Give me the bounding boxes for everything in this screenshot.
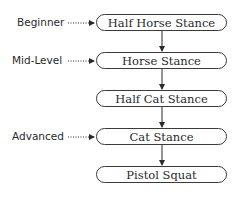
step-cat-stance: Cat Stance [96, 128, 227, 145]
step-half-horse-stance: Half Horse Stance [96, 14, 227, 31]
step-horse-stance: Horse Stance [96, 52, 227, 69]
step-pistol-squat: Pistol Squat [96, 166, 227, 183]
step-half-cat-stance: Half Cat Stance [96, 90, 227, 107]
level-label-beginner: Beginner [17, 16, 64, 28]
level-label-advanced: Advanced [12, 130, 64, 142]
level-label-mid-level: Mid-Level [12, 54, 62, 66]
